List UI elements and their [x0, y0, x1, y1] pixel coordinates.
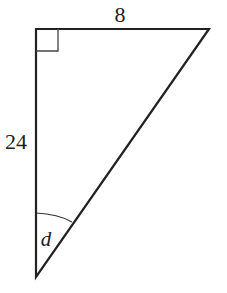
top-side-label: 8	[115, 2, 126, 27]
right-angle-marker	[36, 29, 58, 51]
angle-arc	[36, 213, 72, 222]
triangle-diagram: 8 24 d	[0, 0, 227, 293]
triangle	[36, 29, 209, 277]
left-side-label: 24	[5, 129, 27, 154]
angle-label: d	[41, 227, 52, 251]
